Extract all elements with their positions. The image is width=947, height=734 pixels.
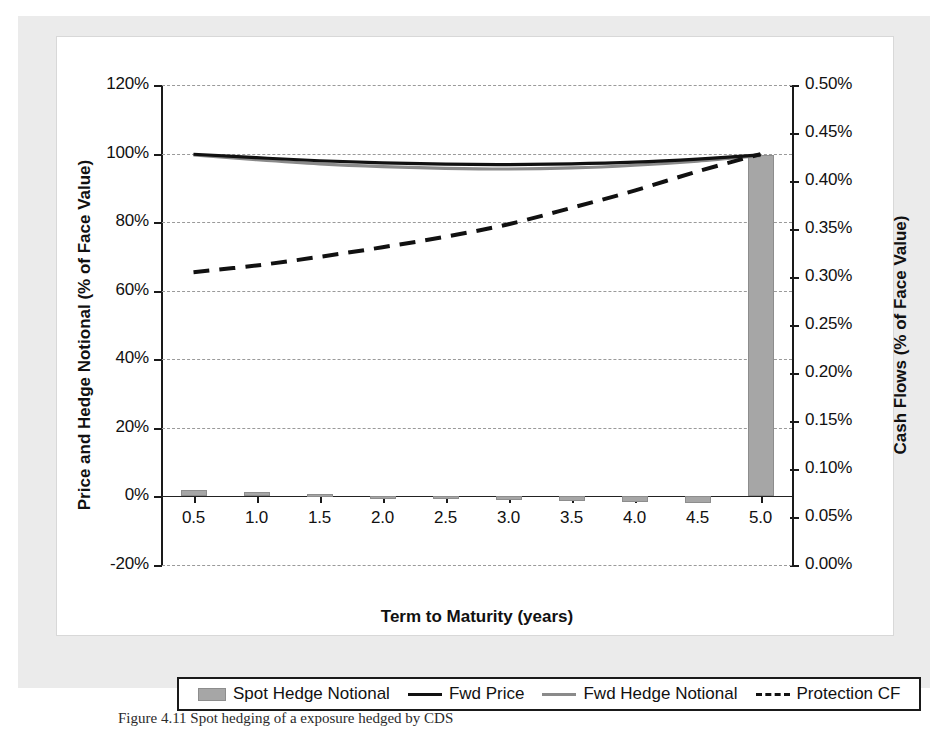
legend-item-label: Fwd Price (449, 684, 525, 704)
left-axis-tick-label: 100% (106, 143, 149, 163)
right-axis-tick-label: 0.25% (805, 314, 852, 334)
x-axis-title: Term to Maturity (years) (162, 607, 792, 627)
left-axis-tick-label: 120% (106, 74, 149, 94)
right-axis-tick-label: 0.20% (805, 362, 852, 382)
right-axis-tick-label: 0.30% (805, 266, 852, 286)
right-axis-tick-label: 0.35% (805, 218, 852, 238)
right-axis-tick-label: 0.00% (805, 554, 852, 574)
legend-item-spot-hedge-notional[interactable]: Spot Hedge Notional (198, 684, 390, 704)
chart-panel: Price and Hedge Notional (% of Face Valu… (56, 36, 894, 636)
solid-line-black-icon (408, 693, 442, 696)
figure-caption: Figure 4.11 Spot hedging of a exposure h… (118, 710, 878, 727)
right-axis-tick-label: 0.50% (805, 74, 852, 94)
left-axis-title: Price and Hedge Notional (% of Face Valu… (75, 75, 95, 595)
line-series-layer (162, 85, 792, 565)
left-axis-tick-label: 20% (116, 417, 149, 437)
right-axis-tick-label: 0.15% (805, 410, 852, 430)
right-axis-tick-label: 0.10% (805, 458, 852, 478)
legend-item-label: Fwd Hedge Notional (583, 684, 737, 704)
left-axis-tick-label: 40% (116, 348, 149, 368)
left-tick-mark (154, 222, 162, 224)
left-tick-mark (154, 85, 162, 87)
left-tick-mark (154, 496, 162, 498)
left-axis-tick-label: 0% (125, 485, 149, 505)
left-axis-tick-label: 60% (116, 280, 149, 300)
gridline-neg20 (162, 565, 792, 566)
bar-swatch-icon (198, 688, 226, 701)
figure-area: Price and Hedge Notional (% of Face Valu… (0, 0, 947, 734)
legend-item-label: Spot Hedge Notional (233, 684, 390, 704)
left-tick-mark (154, 565, 162, 567)
chart-legend: Spot Hedge NotionalFwd PriceFwd Hedge No… (177, 677, 921, 711)
line-fwd-hedge-notional (194, 155, 761, 169)
right-axis-tick-label: 0.45% (805, 122, 852, 142)
right-axis-title: Cash Flows (% of Face Value) (891, 75, 911, 595)
legend-item-fwd-hedge-notional[interactable]: Fwd Hedge Notional (542, 684, 737, 704)
solid-line-gray-icon (542, 693, 576, 696)
left-tick-mark (154, 428, 162, 430)
left-tick-mark (154, 359, 162, 361)
legend-item-fwd-price[interactable]: Fwd Price (408, 684, 525, 704)
legend-item-label: Protection CF (797, 684, 901, 704)
left-axis-tick-label: 80% (116, 211, 149, 231)
left-axis-tick-label: -20% (110, 554, 149, 574)
left-tick-mark (154, 154, 162, 156)
right-axis-tick-label: 0.40% (805, 170, 852, 190)
dashed-line-black-icon (756, 693, 790, 696)
plot-area (162, 85, 792, 565)
legend-item-protection-cf[interactable]: Protection CF (756, 684, 901, 704)
left-tick-mark (154, 291, 162, 293)
right-axis-tick-label: 0.05% (805, 506, 852, 526)
line-protection-cf (194, 154, 761, 272)
